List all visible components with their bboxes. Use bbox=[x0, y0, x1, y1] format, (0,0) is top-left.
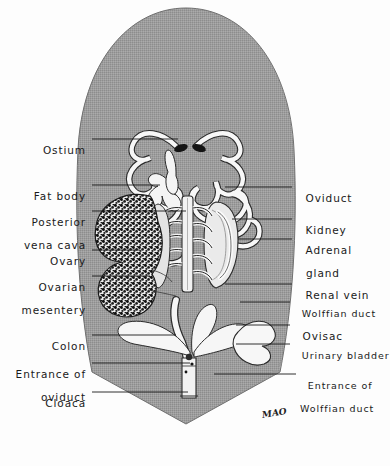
label-wolffian-duct-line1: Wolffian duct bbox=[302, 308, 376, 319]
label-ovary-line1: Ovary bbox=[50, 255, 86, 267]
label-oviduct-line1: Oviduct bbox=[305, 192, 352, 204]
label-fat-body-line1: Fat body bbox=[34, 190, 86, 202]
label-oviduct: Oviduct bbox=[297, 181, 352, 204]
label-colon-line1: Colon bbox=[52, 340, 86, 352]
label-ovary: Ovary bbox=[0, 244, 86, 267]
label-urinary-bladder-line1: Urinary bladder bbox=[302, 350, 390, 361]
ovary bbox=[95, 194, 162, 316]
label-urinary-bladder: Urinary bladder bbox=[294, 338, 390, 361]
label-cloaca-line1: Cloaca bbox=[45, 397, 86, 409]
label-entrance-of-wolffian-duct-line1: Entrance of bbox=[308, 380, 373, 391]
label-posterior-vena-cava-line1: Posterior bbox=[31, 216, 86, 228]
label-cloaca: Cloaca bbox=[0, 386, 86, 409]
label-wolffian-duct: Wolffian duct bbox=[294, 296, 376, 319]
label-ostium-line1: Ostium bbox=[43, 144, 86, 156]
label-ostium: Ostium bbox=[0, 133, 86, 156]
label-fat-body: Fat body bbox=[0, 179, 86, 202]
label-adrenal-gland-line1: Adrenal bbox=[305, 244, 352, 256]
label-ovarian-mesentery-line2: mesentery bbox=[0, 305, 86, 317]
label-entrance-of-wolffian-duct-line2: Wolffian duct bbox=[300, 403, 374, 415]
label-entrance-of-wolffian-duct: Entrance of Wolffian duct bbox=[300, 368, 374, 426]
label-entrance-of-oviduct-line1: Entrance of bbox=[16, 368, 86, 380]
cloaca bbox=[180, 354, 198, 398]
label-colon: Colon bbox=[0, 329, 86, 352]
label-ovarian-mesentery: Ovarian mesentery bbox=[0, 270, 86, 328]
posterior-vena-cava bbox=[182, 196, 193, 292]
label-ovarian-mesentery-line1: Ovarian bbox=[38, 281, 86, 293]
